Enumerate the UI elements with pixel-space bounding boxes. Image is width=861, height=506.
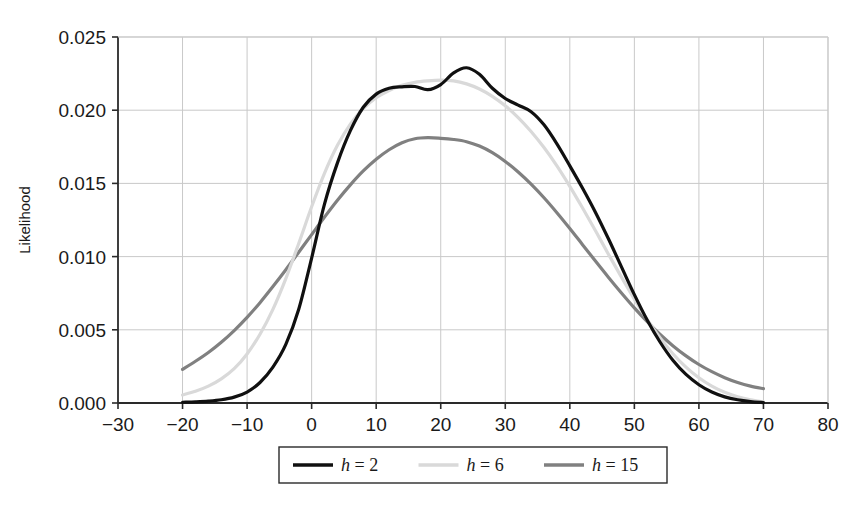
- x-tick-label: −20: [166, 414, 198, 435]
- x-tick-label: −30: [102, 414, 134, 435]
- y-tick-label: 0.000: [58, 393, 106, 414]
- x-tick-label: 10: [366, 414, 387, 435]
- x-tick-label: 60: [688, 414, 709, 435]
- y-tick-label: 0.020: [58, 100, 106, 121]
- y-tick-label: 0.025: [58, 27, 106, 48]
- x-tick-label: 80: [817, 414, 838, 435]
- x-tick-label: 20: [430, 414, 451, 435]
- y-tick-label: 0.015: [58, 173, 106, 194]
- x-tick-label: −10: [231, 414, 263, 435]
- legend-item-label: h = 15: [592, 455, 638, 475]
- legend-item-label: h = 2: [341, 455, 378, 475]
- x-tick-label: 70: [753, 414, 774, 435]
- chart-figure: −30−20−1001020304050607080 0.0000.0050.0…: [0, 0, 861, 506]
- y-tick-label: 0.005: [58, 320, 106, 341]
- x-tick-label: 30: [495, 414, 516, 435]
- y-tick-label: 0.010: [58, 247, 106, 268]
- chart-svg: −30−20−1001020304050607080 0.0000.0050.0…: [0, 0, 861, 506]
- x-tick-label: 0: [306, 414, 317, 435]
- y-axis-label-text: Likelihood: [16, 186, 33, 254]
- x-tick-label: 40: [559, 414, 580, 435]
- legend-item-label: h = 6: [467, 455, 504, 475]
- x-tick-label: 50: [624, 414, 645, 435]
- y-axis-title: Likelihood: [16, 186, 33, 254]
- chart-legend: h = 2h = 6h = 15: [279, 447, 667, 483]
